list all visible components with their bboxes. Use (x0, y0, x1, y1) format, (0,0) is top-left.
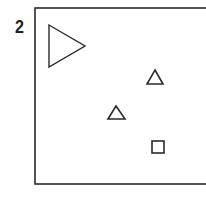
small-triangle-icon (147, 70, 163, 84)
frame-border (35, 8, 206, 184)
large-triangle-icon (49, 25, 85, 67)
figure-canvas (0, 0, 206, 202)
small-triangle-icon (108, 106, 125, 119)
square-icon (152, 141, 164, 153)
